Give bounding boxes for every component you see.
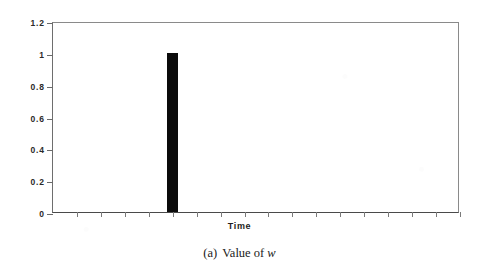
y-axis-tick: [47, 214, 53, 215]
x-axis-tick: [245, 212, 246, 217]
x-axis-title: Time: [0, 221, 479, 231]
figure-caption-variable: w: [267, 246, 275, 260]
y-axis-tick-label: 0.6: [30, 114, 45, 124]
x-axis-tick: [436, 212, 437, 217]
figure-caption: (a)Value of w: [0, 246, 479, 261]
x-axis-tick: [340, 212, 341, 217]
y-axis-tick: [47, 87, 53, 88]
x-axis-tick: [388, 212, 389, 217]
x-axis-tick: [316, 212, 317, 217]
x-axis-tick: [125, 212, 126, 217]
y-axis-tick: [47, 182, 53, 183]
bar-impulse: [167, 53, 178, 212]
y-axis-tick: [47, 119, 53, 120]
y-axis-tick: [47, 55, 53, 56]
x-axis-tick: [364, 212, 365, 217]
x-axis-tick: [149, 212, 150, 217]
y-axis-tick-label: 0: [39, 209, 45, 219]
y-axis-tick: [47, 23, 53, 24]
x-axis-tick: [460, 212, 461, 217]
figure-caption-label: (a): [203, 246, 217, 260]
x-axis-tick: [268, 212, 269, 217]
x-axis-tick: [173, 212, 174, 217]
y-axis-tick-label: 1.2: [30, 18, 45, 28]
x-axis-tick: [101, 212, 102, 217]
x-axis-tick: [221, 212, 222, 217]
y-axis-tick-label: 1: [39, 50, 45, 60]
x-axis-tick: [197, 212, 198, 217]
y-axis-tick-label: 0.8: [30, 82, 45, 92]
figure-caption-text: Value of: [222, 246, 264, 260]
x-axis-tick: [292, 212, 293, 217]
x-axis-tick: [412, 212, 413, 217]
chart-plot-area: 0 0.2 0.4 0.6 0.8 1 1.2: [52, 22, 459, 213]
figure-panel: 0 0.2 0.4 0.6 0.8 1 1.2: [0, 0, 479, 273]
y-axis-tick-label: 0.4: [30, 145, 45, 155]
x-axis-tick: [77, 212, 78, 217]
y-axis-tick-label: 0.2: [30, 177, 45, 187]
y-axis-tick: [47, 150, 53, 151]
